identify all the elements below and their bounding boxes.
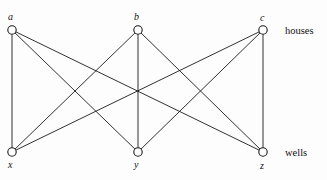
node-y[interactable] — [134, 148, 142, 156]
houses-row-label: houses — [285, 26, 314, 37]
wells-row-label: wells — [285, 148, 307, 159]
node-label-z: z — [260, 161, 264, 171]
node-x[interactable] — [8, 148, 16, 156]
node-b[interactable] — [134, 26, 142, 34]
node-c[interactable] — [259, 26, 267, 34]
node-label-a: a — [8, 12, 13, 22]
node-label-x: x — [8, 160, 12, 170]
node-label-c: c — [260, 13, 264, 23]
node-z[interactable] — [259, 148, 267, 156]
edges-layer — [12, 32, 263, 150]
bipartite-graph — [0, 0, 327, 180]
node-a[interactable] — [8, 26, 16, 34]
diagram-canvas: abcxyz houses wells — [0, 0, 327, 180]
node-label-y: y — [134, 160, 138, 170]
node-label-b: b — [134, 12, 139, 22]
